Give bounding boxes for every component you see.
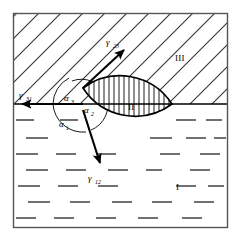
- three-phase-contact-diagram: γ 23 γ 31 γ 12 α 1 α 2 α 3 III II: [0, 0, 242, 243]
- alpha-1-symbol: α: [59, 119, 64, 129]
- gamma-12-subscript: 12: [95, 179, 101, 185]
- gamma-31-symbol: γ: [19, 90, 23, 100]
- alpha-1-subscript: 1: [66, 125, 69, 131]
- alpha-2-subscript: 2: [91, 111, 94, 117]
- region-label-II: II: [128, 102, 135, 112]
- figure-container: γ 23 γ 31 γ 12 α 1 α 2 α 3 III II: [0, 0, 242, 243]
- region-label-III: III: [175, 53, 185, 63]
- gamma-12-symbol: γ: [88, 173, 92, 183]
- region-label-I: I: [176, 182, 179, 192]
- alpha-3-subscript: 3: [70, 99, 74, 105]
- alpha-2-symbol: α: [84, 105, 89, 115]
- gamma-31-subscript: 31: [25, 96, 32, 102]
- alpha-3-symbol: α: [64, 93, 69, 103]
- gamma-23-subscript: 23: [113, 43, 119, 49]
- gamma-23-symbol: γ: [106, 37, 110, 47]
